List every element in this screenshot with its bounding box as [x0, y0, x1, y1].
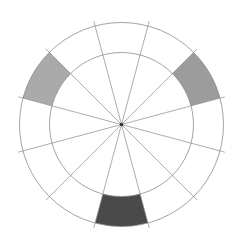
spoke-line: [122, 97, 225, 125]
spoke-line: [122, 125, 225, 153]
shaded-segments: [23, 52, 220, 226]
spoke-line: [46, 125, 122, 201]
segment-bottom: [95, 194, 148, 226]
spoke-line: [18, 125, 121, 153]
spoke-line: [122, 21, 150, 124]
spoke-line: [94, 21, 122, 124]
spoke-line: [18, 97, 121, 125]
center-dot: [120, 123, 124, 127]
color-wheel-diagram: [0, 0, 241, 243]
spoke-line: [122, 125, 198, 201]
